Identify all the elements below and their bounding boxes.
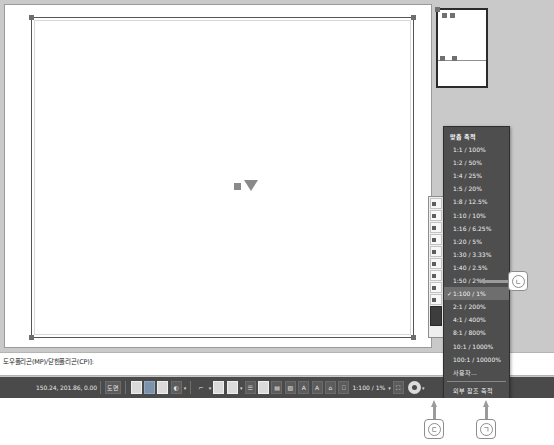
gear-icon[interactable] (408, 381, 421, 394)
otrack-button[interactable] (213, 381, 224, 394)
scale-menu-item-1-30[interactable]: 1:30 / 3.33% (444, 248, 509, 261)
command-prompt-text: 도우폴리곤(MP)/닫힌폴리곤(CP)]: (3, 356, 94, 366)
scale-menu-item-1-8[interactable]: 1:8 / 12.5% (444, 195, 509, 208)
snap-mode-button[interactable] (131, 381, 142, 394)
scale-menu-item-1-2[interactable]: 1:2 / 50% (444, 156, 509, 169)
secondary-grip-mid-b[interactable] (452, 56, 457, 61)
secondary-grip-inner-a[interactable] (442, 13, 447, 18)
scale-menu-item-label: 100:1 / 10000% (453, 356, 501, 363)
secondary-grip-top-left[interactable] (435, 7, 440, 12)
scale-dropdown-menu[interactable]: 맞춤 축척 1:1 / 100% 1:2 / 50% 1:4 / 25% 1:5… (443, 126, 510, 398)
selection-cycling-button[interactable] (258, 381, 269, 394)
screenshot-root: 맞춤 축척 1:1 / 100% 1:2 / 50% 1:4 / 25% 1:5… (0, 0, 554, 445)
checkmark-icon: ✓ (447, 287, 452, 300)
scale-menu-item-1-4[interactable]: 1:4 / 25% (444, 169, 509, 182)
palette-item-7[interactable] (430, 270, 442, 281)
annotation-scale-b-button[interactable]: A (312, 381, 323, 394)
palette-item-4[interactable] (430, 234, 442, 245)
annotation-visibility-button[interactable]: ▤ (271, 381, 282, 394)
callout-badge-bottom-left: ㄷ (424, 419, 444, 439)
viewport-grip-bottom-left[interactable] (29, 335, 34, 340)
lineweight-button[interactable] (227, 381, 238, 394)
scale-menu-item-label: 1:100 / 1% (453, 290, 486, 297)
viewport-grip-top-right[interactable] (411, 15, 416, 20)
workspace-switch-button[interactable]: ⌂ (325, 381, 336, 394)
osnap-chevron-down-icon[interactable]: ▾ (209, 385, 212, 391)
scale-menu-item-1-1[interactable]: 1:1 / 100% (444, 143, 509, 156)
scale-menu-item-xref-scale[interactable]: 외부 참조 축척 (444, 384, 509, 397)
scale-menu-item-label: 1:1 / 100% (453, 146, 486, 153)
secondary-grip-inner-b[interactable] (450, 13, 455, 18)
transparency-button[interactable]: ☰ (245, 381, 256, 394)
autoscale-button[interactable]: ▧ (285, 381, 296, 394)
grid-display-button[interactable] (144, 381, 155, 394)
scale-menu-item-label: 8:1 / 800% (453, 329, 486, 336)
palette-item-3[interactable] (430, 222, 442, 233)
scale-menu-item-1-16[interactable]: 1:16 / 6.25% (444, 222, 509, 235)
paper-inner-border (34, 20, 411, 335)
callout-letter: ㄱ (483, 424, 489, 434)
callout-arrow-right (478, 278, 508, 285)
callout-arrow-bottom-left (431, 400, 438, 420)
palette-icon-2 (432, 214, 436, 218)
palette-item-1[interactable] (430, 198, 442, 209)
palette-icon-6 (432, 262, 436, 266)
scale-menu-item-1-5[interactable]: 1:5 / 20% (444, 182, 509, 195)
scale-menu-separator (447, 381, 506, 382)
scale-menu-item-label: 2:1 / 200% (453, 303, 486, 310)
scale-menu-item-custom[interactable]: 사용자... (444, 366, 509, 379)
coordinates-readout[interactable]: 150.24, 201.86, 0.00 (36, 384, 97, 391)
scale-menu-item-2-1[interactable]: 2:1 / 200% (444, 300, 509, 313)
scale-menu-item-1-100[interactable]: ✓ 1:100 / 1% (444, 287, 509, 300)
model-space-label: 도면 (107, 383, 119, 392)
palette-item-2[interactable] (430, 210, 442, 221)
isolate-objects-button[interactable]: ⛶ (393, 381, 404, 394)
palette-icon-8 (432, 286, 436, 290)
scale-menu-item-1-10[interactable]: 1:10 / 10% (444, 209, 509, 222)
palette-item-5[interactable] (430, 246, 442, 257)
scale-menu-item-8-1[interactable]: 8:1 / 800% (444, 326, 509, 339)
polar-tracking-button[interactable]: ◐ (171, 381, 182, 394)
lineweight-chevron-down-icon[interactable]: ▾ (240, 385, 243, 391)
paper-sheet-viewport[interactable] (31, 17, 414, 338)
polar-chevron-down-icon[interactable]: ▾ (184, 385, 187, 391)
customization-chevron-down-icon[interactable]: ▾ (422, 385, 425, 391)
palette-color-swatch[interactable] (430, 306, 442, 326)
secondary-viewport-divider (438, 60, 486, 61)
status-separator-3 (190, 381, 191, 394)
arrow-shaft (484, 280, 508, 283)
canvas-triangle-marker (244, 180, 258, 191)
current-scale-label[interactable]: 1:100 / 1% (353, 384, 386, 391)
scale-menu-item-1-40[interactable]: 1:40 / 2.5% (444, 261, 509, 274)
palette-item-8[interactable] (430, 282, 442, 293)
osnap-button[interactable]: ⌐ (196, 381, 207, 394)
scale-menu-item-label: 사용자... (453, 369, 477, 376)
secondary-grip-mid-a[interactable] (440, 56, 445, 61)
ortho-mode-button[interactable] (157, 381, 168, 394)
palette-item-6[interactable] (430, 258, 442, 269)
lock-ui-button[interactable]: ⎕ (338, 381, 349, 394)
palette-icon-1 (432, 202, 436, 206)
palette-item-9[interactable] (430, 294, 442, 305)
palette-icon-9 (432, 298, 436, 302)
scale-chevron-down-icon[interactable]: ▾ (388, 385, 391, 391)
properties-tool-palette[interactable] (428, 196, 444, 338)
viewport-grip-top-left[interactable] (29, 15, 34, 20)
drawing-canvas[interactable] (4, 4, 432, 348)
secondary-viewport[interactable] (436, 8, 488, 88)
annotation-scale-a-button[interactable]: A (298, 381, 309, 394)
callout-badge-right: ㄴ (508, 271, 528, 291)
scale-menu-item-10-1[interactable]: 10:1 / 1000% (444, 340, 509, 353)
scale-menu-item-label: 1:4 / 25% (453, 172, 482, 179)
status-separator-2 (125, 381, 126, 394)
scale-menu-item-percent[interactable]: ✓ 퍼센트 (444, 397, 509, 398)
arrow-shaft (433, 406, 436, 420)
scale-menu-item-label: 4:1 / 400% (453, 316, 486, 323)
scale-menu-item-4-1[interactable]: 4:1 / 400% (444, 313, 509, 326)
model-space-button[interactable]: 도면 (105, 381, 121, 394)
viewport-grip-bottom-right[interactable] (411, 335, 416, 340)
scale-menu-item-100-1[interactable]: 100:1 / 10000% (444, 353, 509, 366)
palette-icon-5 (432, 250, 436, 254)
scale-menu-item-1-20[interactable]: 1:20 / 5% (444, 235, 509, 248)
scale-menu-item-label: 1:5 / 20% (453, 185, 482, 192)
